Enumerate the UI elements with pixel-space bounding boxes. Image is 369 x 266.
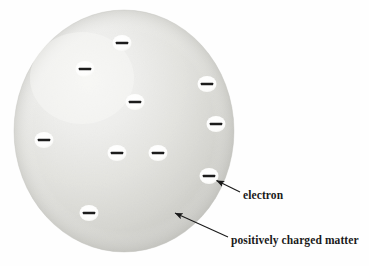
diagram-canvas — [0, 0, 369, 266]
electron-minus-sign-icon — [129, 101, 141, 104]
electron — [207, 116, 226, 132]
electron — [198, 76, 217, 92]
electron-minus-sign-icon — [201, 83, 213, 86]
electron-minus-sign-icon — [152, 152, 164, 155]
electron-minus-sign-icon — [210, 123, 222, 126]
electron-minus-sign-icon — [203, 175, 215, 178]
electron — [108, 145, 127, 161]
electron-minus-sign-icon — [38, 139, 50, 142]
electron — [200, 168, 219, 184]
electron — [80, 205, 99, 221]
electron-minus-sign-icon — [111, 152, 123, 155]
electron-minus-sign-icon — [83, 212, 95, 215]
positively-charged-matter-label: positively charged matter — [231, 234, 359, 246]
electron — [35, 132, 54, 148]
atom-diagram-figure: electron positively charged matter — [0, 0, 369, 266]
electron — [126, 94, 145, 110]
electron — [149, 145, 168, 161]
electron-label: electron — [243, 189, 283, 201]
electron-minus-sign-icon — [79, 68, 91, 71]
electron — [76, 61, 95, 77]
electron-minus-sign-icon — [116, 42, 128, 45]
electron — [113, 35, 132, 51]
